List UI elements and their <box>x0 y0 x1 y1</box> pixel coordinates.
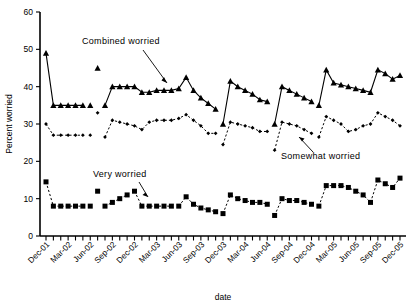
data-point <box>265 202 270 207</box>
x-tick-label: Dec-01 <box>26 240 51 265</box>
data-point <box>117 196 122 201</box>
series-line <box>275 122 312 150</box>
data-point <box>339 122 343 126</box>
data-point <box>236 122 240 126</box>
data-point <box>177 117 181 121</box>
series-line <box>46 53 83 105</box>
x-tick-label: Dec-04 <box>292 240 317 265</box>
data-point <box>139 204 144 209</box>
data-point <box>169 204 174 209</box>
data-point <box>190 87 196 93</box>
data-point <box>249 91 255 97</box>
data-point <box>302 200 307 205</box>
y-tick-label: 30 <box>24 119 34 129</box>
x-axis-title: date <box>215 292 232 302</box>
series-line <box>105 195 127 206</box>
annotation-combined-worried-arrowhead <box>162 77 168 83</box>
data-point <box>102 102 108 108</box>
data-point <box>88 204 93 209</box>
series-combined-worried <box>43 50 403 127</box>
data-point <box>58 204 63 209</box>
data-point <box>227 78 233 84</box>
data-point <box>280 196 285 201</box>
y-tick-label: 60 <box>24 7 34 17</box>
data-point <box>220 121 226 127</box>
data-point <box>51 133 55 137</box>
series-line <box>46 124 83 135</box>
data-point <box>294 91 300 97</box>
data-point <box>376 111 380 115</box>
data-point <box>103 204 108 209</box>
data-point <box>95 189 100 194</box>
data-point <box>361 124 365 128</box>
data-point <box>391 118 395 122</box>
x-tick-label: Jun-02 <box>72 240 96 264</box>
data-point <box>309 202 314 207</box>
data-point <box>242 87 248 93</box>
data-point <box>250 200 255 205</box>
x-tick-label: Sep-03 <box>181 240 206 265</box>
data-point <box>154 204 159 209</box>
data-point <box>324 115 328 119</box>
data-point <box>324 183 329 188</box>
data-point <box>243 198 248 203</box>
data-point <box>147 204 152 209</box>
data-point <box>257 200 262 205</box>
data-point <box>66 133 70 137</box>
data-point <box>184 113 188 117</box>
annotation-combined-worried: Combined worried <box>82 36 167 83</box>
data-point <box>368 200 373 205</box>
data-point <box>176 204 181 209</box>
data-point <box>331 183 336 188</box>
data-point <box>169 118 173 122</box>
data-point <box>279 84 285 90</box>
data-point <box>162 204 167 209</box>
data-point <box>155 118 159 122</box>
data-point <box>43 50 49 56</box>
series-line <box>46 182 83 206</box>
data-point <box>375 178 380 183</box>
data-point <box>191 202 196 207</box>
data-point <box>310 131 314 135</box>
data-point <box>294 198 299 203</box>
data-point <box>213 209 218 214</box>
data-point <box>390 185 395 190</box>
series-line <box>319 113 400 137</box>
data-point <box>228 120 232 124</box>
data-point <box>317 135 321 139</box>
data-point <box>95 65 101 71</box>
data-point <box>272 121 278 127</box>
data-point <box>308 99 314 105</box>
data-point <box>398 176 403 181</box>
data-point <box>206 207 211 212</box>
y-tick-label: 10 <box>24 194 34 204</box>
data-point <box>316 102 322 108</box>
data-point <box>339 183 344 188</box>
data-point <box>382 71 388 77</box>
data-point <box>286 87 292 93</box>
series-line <box>275 87 312 124</box>
data-point <box>228 192 233 197</box>
data-point <box>331 80 337 86</box>
y-axis-title: Percent worried <box>4 94 14 154</box>
data-point <box>183 74 189 80</box>
data-point <box>133 124 137 128</box>
series-line <box>319 178 400 206</box>
y-tick-label: 50 <box>24 44 34 54</box>
data-point <box>301 95 307 101</box>
data-point <box>295 124 299 128</box>
data-point <box>73 204 78 209</box>
data-point <box>103 135 107 139</box>
series-somewhat-worried <box>44 111 402 152</box>
data-point <box>87 102 93 108</box>
y-axis-ticks: 0102030405060 <box>24 7 40 241</box>
data-point <box>176 85 182 91</box>
data-point <box>235 196 240 201</box>
x-tick-label: Dec-03 <box>203 240 228 265</box>
x-tick-label: Jun-03 <box>160 240 184 264</box>
x-tick-label: Mar-05 <box>314 240 339 265</box>
data-point <box>110 118 114 122</box>
data-series-layer <box>43 50 403 218</box>
series-line <box>319 70 400 105</box>
data-point <box>323 67 329 73</box>
